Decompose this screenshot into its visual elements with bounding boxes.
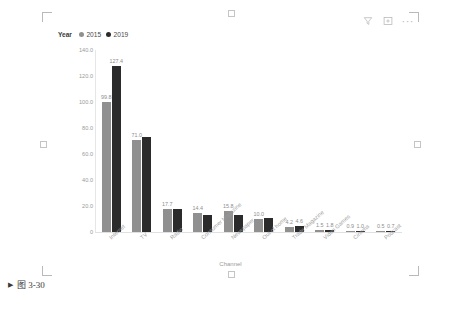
bar-data-label: 14.4 [193,205,204,211]
bar-group[interactable]: 0.91.0 [340,50,371,232]
bar-2019[interactable] [142,137,151,232]
bar-data-label: 1.5 [316,222,324,228]
y-axis-tick: 100.0 [79,99,93,105]
resize-handle-bottom-right[interactable] [409,266,419,276]
bar-data-label: 10.0 [254,211,265,217]
visual-header-toolbar[interactable]: ··· [362,15,415,27]
legend-label-2015: 2015 [86,31,101,38]
bar-group[interactable]: 99.8127.4 [96,50,127,232]
x-axis-title: Channel [43,261,418,267]
plot-area: 99.8127.471.017.714.415.810.04.24.61.51.… [96,50,401,232]
bar-data-label: 0.9 [347,223,355,229]
bar-data-label: 4.6 [296,218,304,224]
bar-group[interactable]: 4.24.6 [279,50,310,232]
figure-caption: ▶ 图 3-30 [8,278,45,291]
bar-data-label: 0.5 [377,223,385,229]
filter-funnel-icon[interactable] [362,15,374,27]
y-axis: 020.040.060.080.0100.0120.0140.0 [61,50,93,232]
y-axis-tick: 20.0 [82,203,93,209]
more-options-icon[interactable]: ··· [402,19,415,23]
resize-handle-bottom-left[interactable] [42,266,52,276]
y-axis-tick: 0 [90,229,93,235]
legend-item-2019[interactable]: 2019 [106,31,128,38]
y-axis-tick: 120.0 [79,73,93,79]
resize-handle-top-left[interactable] [42,12,52,22]
bar-2019[interactable]: 127.4 [112,66,121,232]
bar-data-label: 127.4 [110,58,124,64]
bar-2015[interactable]: 0.9 [346,231,355,232]
bar-group[interactable]: 14.4 [188,50,219,232]
bar-2015[interactable]: 1.5 [315,230,324,232]
resize-handle-right[interactable] [414,141,421,148]
y-axis-tick: 140.0 [79,47,93,53]
legend: Year 2015 2019 [58,31,128,38]
bar-2015[interactable]: 10.0 [254,219,263,232]
resize-handle-left[interactable] [40,141,47,148]
legend-swatch-2015 [79,32,84,37]
bar-2015[interactable]: 0.5 [376,231,385,232]
bar-group[interactable]: 10.0 [249,50,280,232]
resize-handle-top[interactable] [228,10,235,17]
bar-2015[interactable]: 17.7 [163,209,172,232]
bar-data-label: 71.0 [132,132,143,138]
focus-mode-icon[interactable] [382,15,394,27]
caption-marker-icon: ▶ [8,281,13,289]
bar-2015[interactable]: 4.2 [285,227,294,232]
chart-visual-container[interactable]: ··· Year 2015 2019 020.040.060.080.0100.… [43,13,418,275]
y-axis-tick: 80.0 [82,125,93,131]
y-axis-tick: 60.0 [82,151,93,157]
bar-group[interactable]: 71.0 [127,50,158,232]
bar-group[interactable]: 17.7 [157,50,188,232]
bar-group[interactable]: 1.51.8 [310,50,341,232]
resize-handle-bottom[interactable] [228,271,235,278]
legend-item-2015[interactable]: 2015 [79,31,101,38]
legend-swatch-2019 [106,32,111,37]
bar-data-label: 17.7 [162,201,173,207]
bar-group[interactable]: 0.50.7 [371,50,402,232]
legend-title: Year [58,31,72,38]
bar-data-label: 99.8 [101,94,112,100]
bar-2015[interactable]: 71.0 [132,140,141,232]
y-axis-tick: 40.0 [82,177,93,183]
bar-2015[interactable]: 14.4 [193,213,202,232]
legend-label-2019: 2019 [114,31,129,38]
caption-text: 图 3-30 [17,278,45,291]
bar-2015[interactable]: 99.8 [102,102,111,232]
